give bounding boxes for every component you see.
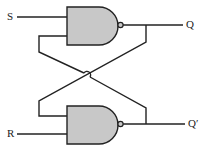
inversion-bubble-icon	[118, 22, 123, 27]
top-nand-gate	[67, 7, 123, 45]
sr-latch-diagram: S R Q Q′	[0, 0, 205, 154]
r-label: R	[7, 128, 14, 139]
q-label: Q	[186, 19, 194, 30]
q-bar-label: Q′	[188, 118, 198, 129]
s-label: S	[7, 11, 13, 22]
bottom-nand-gate	[67, 106, 123, 144]
inversion-bubble-icon	[118, 121, 123, 126]
circuit-svg	[0, 0, 205, 154]
nand-gate-body	[67, 106, 118, 144]
nand-gate-body	[67, 7, 118, 45]
